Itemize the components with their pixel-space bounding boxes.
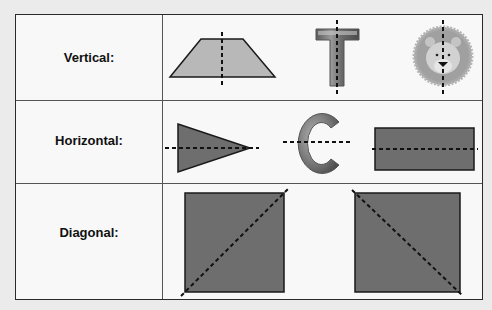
rectangle-shape bbox=[372, 128, 478, 170]
letter-t-shape bbox=[316, 20, 359, 96]
triangle-shape bbox=[165, 124, 259, 172]
lion-face-icon bbox=[414, 20, 472, 95]
trapezoid-shape bbox=[170, 32, 275, 85]
stage: Vertical: Horizontal: Diagonal: bbox=[0, 0, 492, 310]
letter-c-shape bbox=[283, 114, 351, 174]
square-shape-1 bbox=[181, 189, 288, 296]
square-shape-2 bbox=[352, 190, 463, 296]
symmetry-illustrations bbox=[0, 0, 492, 310]
